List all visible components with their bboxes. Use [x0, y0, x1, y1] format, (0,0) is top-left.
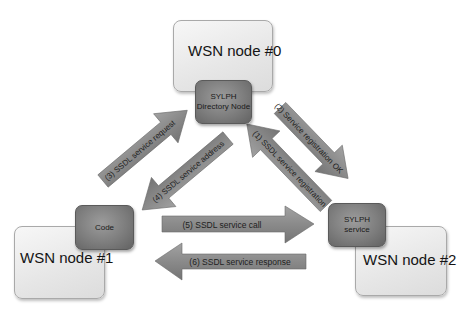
arrow-3-label: (3) SSDL service request [103, 118, 178, 183]
diagram-canvas: (5) SSDL service call (6) SSDL service r… [0, 0, 465, 313]
wsn-node-2-label: WSN node #2 [363, 251, 456, 268]
service-line2: service [344, 225, 370, 235]
arrow-4-label: (4) SSDL service address [151, 139, 226, 204]
arrow-5-label: (5) SSDL service call [182, 220, 261, 230]
directory-line1: SYLPH [197, 92, 250, 102]
sylph-service-node: SYLPH service [328, 203, 386, 247]
directory-line2: Directory Node [197, 102, 250, 112]
code-label: Code [95, 223, 114, 233]
sylph-directory-node: SYLPH Directory Node [195, 80, 252, 124]
wsn-node-1-label: WSN node #1 [20, 249, 113, 266]
wsn-node-0-label: WSN node #0 [188, 42, 281, 59]
arrow-6-label: (6) SSDL service response [189, 257, 291, 267]
arrow-2-registration-ok: (2) Service registration OK [263, 91, 362, 192]
arrow-6-service-response: (6) SSDL service response [155, 243, 306, 280]
arrow-5-service-call: (5) SSDL service call [162, 206, 314, 243]
code-node: Code [75, 205, 134, 250]
service-line1: SYLPH [344, 215, 370, 225]
